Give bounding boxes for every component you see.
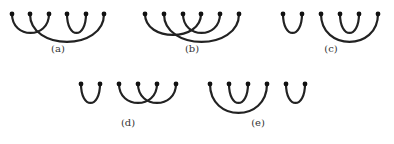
arc [340,14,359,33]
node-dot [246,82,251,87]
node-dot [284,82,289,87]
node-dot [199,12,204,17]
node-dot [237,12,242,17]
node-dot [218,12,223,17]
node-dot [79,82,84,87]
label-a: (a) [51,43,65,54]
node-dot [155,82,160,87]
label-c: (c) [324,43,337,54]
diagram-a [10,12,107,42]
node-dot [281,12,286,17]
node-dot [47,12,52,17]
node-dot [98,82,103,87]
node-dot [136,82,141,87]
node-dot [357,12,362,17]
diagram-e [208,82,308,113]
arc-diagrams-canvas [0,0,394,144]
diagram-d [79,82,179,103]
label-b: (b) [185,43,199,54]
arc [210,84,267,113]
node-dot [265,82,270,87]
arc [229,84,248,103]
node-dot [174,82,179,87]
arc [286,84,305,103]
node-dot [28,12,33,17]
node-dot [102,12,107,17]
node-dot [10,12,15,17]
label-d: (d) [121,117,135,128]
node-dot [143,12,148,17]
arc [283,14,302,33]
node-dot [181,12,186,17]
node-dot [319,12,324,17]
node-dot [227,82,232,87]
node-dot [338,12,343,17]
node-dot [300,12,305,17]
arc [67,14,86,33]
node-dot [84,12,89,17]
diagram-c [281,12,381,42]
node-dot [376,12,381,17]
node-dot [303,82,308,87]
arc [81,84,100,103]
node-dot [162,12,167,17]
node-dot [208,82,213,87]
node-dot [117,82,122,87]
arc [321,14,378,42]
diagram-b [143,12,242,42]
label-e: (e) [251,117,265,128]
node-dot [65,12,70,17]
